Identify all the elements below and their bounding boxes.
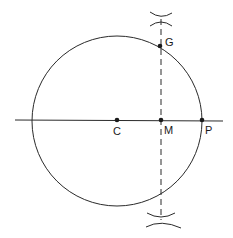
geometry-diagram: C M P G: [0, 0, 233, 238]
point-m: [159, 118, 164, 123]
label-p: P: [205, 124, 212, 136]
label-g: G: [165, 36, 174, 48]
point-g: [158, 44, 163, 49]
bottom-arc-intersection-mark: [146, 213, 181, 228]
label-c: C: [113, 125, 121, 137]
point-p: [200, 118, 205, 123]
point-c: [115, 118, 120, 123]
label-m: M: [164, 124, 173, 136]
